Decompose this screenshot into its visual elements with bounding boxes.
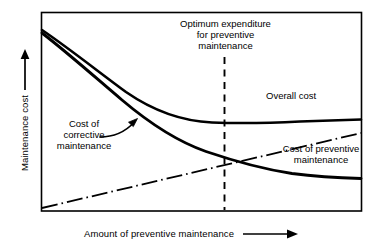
preventive-cost-label-line-1: Cost of preventive xyxy=(271,143,371,154)
y-axis-up-arrow-icon xyxy=(19,48,31,90)
preventive-cost-label-line-2: maintenance xyxy=(271,154,371,165)
overall-cost-label: Overall cost xyxy=(266,91,316,102)
preventive-cost-label: Cost of preventive maintenance xyxy=(271,143,371,165)
chart-title: Optimum expenditure for preventive maint… xyxy=(160,18,291,52)
corrective-cost-label: Cost of corrective maintenance xyxy=(52,118,116,152)
corrective-cost-label-line-1: Cost of xyxy=(52,118,116,129)
y-axis-label: Maintenance cost xyxy=(20,95,31,171)
chart-title-line-3: maintenance xyxy=(160,40,291,51)
chart-title-line-2: for preventive xyxy=(160,29,291,40)
x-axis-right-arrow-icon xyxy=(243,228,299,240)
x-axis-label-group: Amount of preventive maintenance xyxy=(84,227,299,241)
x-axis-label: Amount of preventive maintenance xyxy=(84,229,234,240)
y-axis-label-group: Maintenance cost xyxy=(17,31,33,171)
chart-figure: Optimum expenditure for preventive maint… xyxy=(0,0,377,248)
corrective-cost-label-line-3: maintenance xyxy=(52,140,116,151)
chart-title-line-1: Optimum expenditure xyxy=(160,18,291,29)
corrective-cost-label-line-2: corrective xyxy=(52,129,116,140)
